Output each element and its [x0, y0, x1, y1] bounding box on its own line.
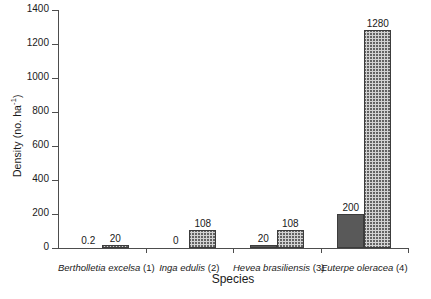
bar-slot: 108	[277, 10, 304, 248]
y-axis-tick-label: 0	[43, 241, 49, 252]
bar-value-label: 108	[282, 218, 299, 229]
y-axis-tick: 0	[52, 248, 58, 249]
x-axis-tick	[233, 248, 234, 253]
bar-group-bars: 0.220	[58, 10, 146, 248]
y-axis-tick-label: 1000	[27, 71, 49, 82]
bar-value-label: 1280	[367, 18, 389, 29]
bar[interactable]: 20	[102, 245, 129, 248]
bar-group: 2001280	[321, 10, 409, 248]
y-axis-title: Density (no. ha-1)	[9, 56, 23, 216]
bar-group-bars: 2001280	[321, 10, 409, 248]
bar-value-label: 0	[173, 235, 179, 246]
bar-group: 20108	[233, 10, 321, 248]
bar-slot: 20	[250, 10, 277, 248]
bar-slot: 1280	[364, 10, 391, 248]
x-axis-tick	[146, 248, 147, 253]
y-axis-tick-label: 1200	[27, 37, 49, 48]
bar-group: 0108	[146, 10, 234, 248]
y-axis-tick-label: 800	[32, 105, 49, 116]
y-axis-title-prefix: Density (no. ha	[11, 105, 23, 177]
chart-figure: Density (no. ha-1) 020040060080010001200…	[0, 0, 431, 299]
bar-value-label: 200	[342, 202, 359, 213]
y-axis-title-suffix: )	[11, 94, 23, 98]
bar-slot: 0.2	[75, 10, 102, 248]
bar-value-label: 108	[194, 218, 211, 229]
bar-slot: 108	[189, 10, 216, 248]
bar-slot: 20	[102, 10, 129, 248]
bar-slot: 0	[162, 10, 189, 248]
y-axis-tick-label: 1400	[27, 3, 49, 14]
x-axis-tick	[321, 248, 322, 253]
x-axis-title: Species	[58, 272, 408, 286]
bar-group-bars: 20108	[233, 10, 321, 248]
bar[interactable]: 108	[277, 230, 304, 248]
bar-group: 0.220	[58, 10, 146, 248]
bar[interactable]: 1280	[364, 30, 391, 248]
y-axis-title-exponent: -1	[9, 98, 18, 105]
bar-slot: 200	[337, 10, 364, 248]
bar[interactable]: 108	[189, 230, 216, 248]
bar-value-label: 0.2	[81, 235, 95, 246]
bar[interactable]: 20	[250, 245, 277, 248]
bar-value-label: 20	[258, 233, 269, 244]
bar-value-label: 20	[110, 233, 121, 244]
bar[interactable]: 200	[337, 214, 364, 248]
y-axis-tick-label: 600	[32, 139, 49, 150]
y-axis-tick-label: 200	[32, 207, 49, 218]
bar-group-bars: 0108	[146, 10, 234, 248]
plot-area: 0200400600800100012001400 0.220010820108…	[58, 10, 408, 248]
x-axis-tick	[408, 248, 409, 253]
y-axis-tick-label: 400	[32, 173, 49, 184]
